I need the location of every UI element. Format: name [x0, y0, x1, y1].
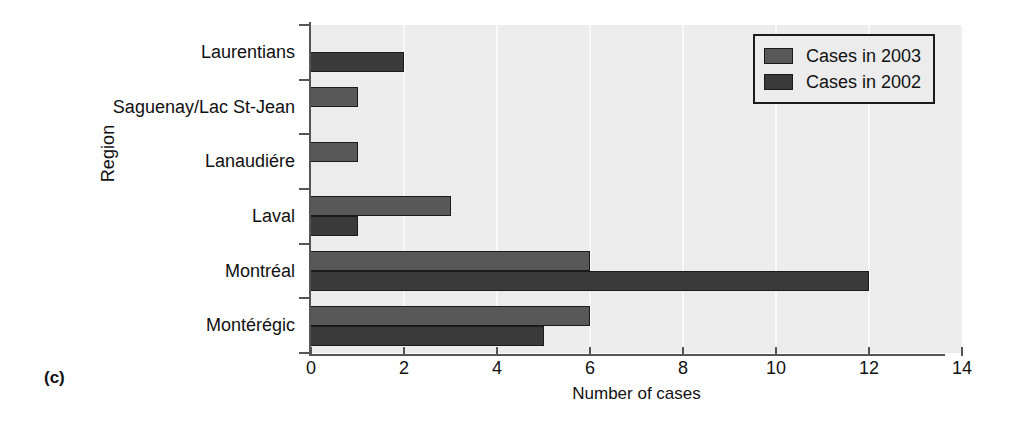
x-tick-mark	[589, 347, 591, 356]
bar	[311, 216, 358, 236]
y-tick-label-lanaudiere: Lanaudiére	[60, 134, 305, 189]
x-tick-mark	[775, 347, 777, 356]
x-tick-label: 2	[399, 358, 409, 379]
y-tick-mark	[299, 24, 310, 26]
bar-group	[311, 298, 962, 353]
bar	[311, 196, 451, 216]
legend-swatch-icon-2002	[764, 74, 793, 90]
bar	[311, 271, 869, 291]
legend-swatch-icon-2003	[764, 48, 793, 64]
x-tick-label: 10	[766, 358, 786, 379]
y-tick-mark	[299, 352, 310, 354]
y-tick-mark	[299, 188, 310, 190]
x-tick-label: 4	[492, 358, 502, 379]
bar-empty	[311, 162, 962, 182]
figure-panel-c: Region Laurentians Saguenay/Lac St-Jean …	[0, 0, 1019, 425]
x-tick-mark	[868, 347, 870, 356]
x-tick-mark	[682, 347, 684, 356]
bar	[311, 326, 544, 346]
legend-label-2002: Cases in 2002	[806, 72, 921, 93]
y-tick-mark	[299, 133, 310, 135]
bar-empty	[311, 107, 962, 127]
x-tick-mark	[961, 347, 963, 356]
bar	[311, 52, 404, 72]
y-tick-mark	[299, 79, 310, 81]
x-tick-label: 0	[306, 358, 316, 379]
y-tick-mark	[299, 297, 310, 299]
bar-group	[311, 189, 962, 244]
y-tick-label-saguenay: Saguenay/Lac St-Jean	[60, 80, 305, 135]
x-tick-label: 12	[859, 358, 879, 379]
y-tick-label-laurentians: Laurentians	[60, 25, 305, 80]
bar	[311, 142, 358, 162]
panel-label: (c)	[44, 368, 65, 388]
y-tick-label-laval: Laval	[60, 189, 305, 244]
x-tick-mark	[403, 347, 405, 356]
bar-group	[311, 134, 962, 189]
bar-group	[311, 244, 962, 299]
x-tick-mark	[496, 347, 498, 356]
legend-item-cases-2003: Cases in 2003	[764, 43, 921, 69]
y-tick-label-monteregic: Montérégic	[60, 298, 305, 353]
x-tick-mark	[310, 347, 312, 356]
legend-item-cases-2002: Cases in 2002	[764, 69, 921, 95]
bar	[311, 251, 590, 271]
legend: Cases in 2003 Cases in 2002	[753, 34, 935, 104]
legend-label-2003: Cases in 2003	[806, 46, 921, 67]
y-axis-tick-labels: Laurentians Saguenay/Lac St-Jean Lanaudi…	[60, 25, 305, 353]
y-tick-label-montreal: Montréal	[60, 244, 305, 299]
bar	[311, 87, 358, 107]
bar	[311, 306, 590, 326]
x-axis-title: Number of cases	[311, 384, 962, 404]
x-tick-label: 8	[678, 358, 688, 379]
x-tick-label: 6	[585, 358, 595, 379]
x-tick-label: 14	[952, 358, 972, 379]
y-tick-mark	[299, 243, 310, 245]
